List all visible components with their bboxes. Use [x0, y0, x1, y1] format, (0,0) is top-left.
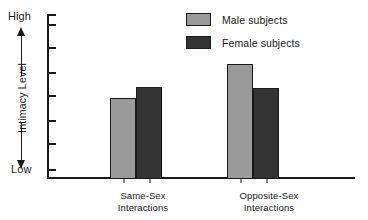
legend-swatch-female-icon	[186, 36, 211, 49]
axis-arrow-line-bottom	[21, 122, 22, 160]
x-axis-category-label: Same-Sex Interactions	[96, 190, 190, 213]
legend-swatch-male-icon	[186, 13, 211, 26]
arrow-up-icon	[17, 27, 25, 36]
x-axis-tick	[240, 179, 242, 183]
bar-male	[110, 98, 136, 179]
x-axis-tick	[266, 179, 268, 183]
x-axis-category-label: Opposite-Sex Interactions	[216, 190, 322, 213]
legend-label-male: Male subjects	[222, 14, 288, 26]
y-axis-title: Intimacy Level	[16, 63, 28, 133]
category-label-line: Same-Sex	[96, 190, 190, 202]
legend-item-female: Female subjects	[186, 34, 300, 51]
category-label-line: Interactions	[96, 202, 190, 214]
x-axis-tick	[149, 179, 151, 183]
x-axis-tick	[123, 179, 125, 183]
bar-female	[136, 87, 162, 179]
bar-male	[227, 64, 253, 180]
y-axis-high-label: High	[8, 10, 31, 22]
legend: Male subjects Female subjects	[186, 11, 300, 57]
bar-female	[253, 88, 279, 179]
bar-chart: High Low Intimacy Level Same-Sex Interac…	[0, 0, 368, 220]
category-label-line: Opposite-Sex	[216, 190, 322, 202]
category-label-line: Interactions	[216, 202, 322, 214]
legend-item-male: Male subjects	[186, 11, 300, 28]
y-axis-title-group: Intimacy Level	[13, 26, 31, 170]
arrow-down-icon	[17, 160, 25, 169]
legend-label-female: Female subjects	[222, 37, 300, 49]
